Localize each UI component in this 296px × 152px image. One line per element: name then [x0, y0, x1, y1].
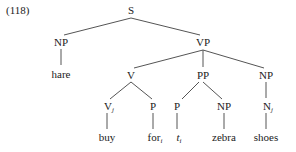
- node-n-j: Nj: [263, 100, 273, 112]
- node-p-2: P: [174, 100, 180, 112]
- leaf-zebra: zebra: [212, 131, 236, 143]
- leaf-for: fori: [148, 131, 163, 143]
- node-v-j-index: j: [112, 106, 114, 114]
- node-np-object: NP: [259, 69, 273, 81]
- leaf-buy: buy: [99, 131, 116, 143]
- leaf-for-index: i: [160, 137, 162, 145]
- tree-edges: [0, 0, 296, 152]
- node-v-j-label: V: [104, 100, 112, 112]
- node-np-pp: NP: [217, 100, 231, 112]
- node-n-j-index: j: [271, 106, 273, 114]
- node-np-subject: NP: [54, 36, 68, 48]
- node-v: V: [127, 69, 135, 81]
- leaf-trace: ti: [176, 131, 181, 143]
- leaf-for-word: for: [148, 131, 161, 143]
- node-vp: VP: [196, 36, 210, 48]
- leaf-trace-index: i: [180, 137, 182, 145]
- node-v-j: Vj: [104, 100, 114, 112]
- node-n-j-label: N: [263, 100, 271, 112]
- leaf-hare: hare: [52, 68, 71, 80]
- node-p-1: P: [150, 100, 156, 112]
- leaf-shoes: shoes: [254, 131, 278, 143]
- node-s: S: [128, 4, 134, 16]
- node-pp: PP: [197, 69, 209, 81]
